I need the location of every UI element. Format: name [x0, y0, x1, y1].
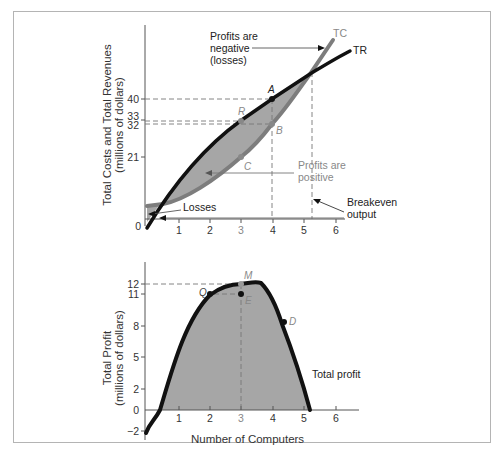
top-ytick-32: 32 — [127, 119, 139, 131]
bottom-ytick-0: 0 — [133, 404, 139, 416]
point-d-marker — [281, 319, 287, 325]
total-profit-label: Total profit — [312, 368, 361, 380]
point-b-label: B — [276, 125, 283, 136]
point-r-marker — [238, 118, 244, 124]
bottom-xtick-2: 2 — [207, 412, 213, 424]
top-xtick-4: 4 — [270, 224, 276, 236]
bottom-xtick-1: 1 — [176, 412, 182, 424]
top-ytick-40: 40 — [127, 93, 139, 105]
top-xtick-1: 1 — [176, 224, 182, 236]
pos-annotation-line1: Profits are — [298, 159, 346, 171]
bottom-ytick-11: 11 — [128, 288, 139, 300]
bottom-xtick-6: 6 — [333, 412, 339, 424]
bottom-xtick-5: 5 — [301, 412, 307, 424]
neg-annotation-line1: Profits are — [210, 30, 258, 42]
top-y-axis-title: Total Costs and Total Revenues (millions… — [101, 44, 125, 206]
bottom-ytick-5: 5 — [133, 351, 139, 363]
point-e-marker — [238, 291, 244, 297]
point-m-label: M — [244, 270, 253, 281]
top-ytick-21: 21 — [127, 151, 139, 163]
top-ytick-0: 0 — [135, 220, 141, 232]
point-q-marker — [207, 291, 213, 297]
bottom-x-axis-title: Number of Computers — [191, 433, 304, 445]
pos-annotation-line2: positive — [298, 171, 334, 183]
tr-label: TR — [353, 44, 367, 56]
tc-label: TC — [333, 27, 347, 39]
point-r-label: R — [238, 106, 245, 117]
bottom-xtick-4: 4 — [270, 412, 276, 424]
breakeven-label-line1: Breakeven — [347, 196, 397, 208]
point-c-marker — [238, 154, 244, 160]
top-chart: 1 2 3 4 5 6 40 33 32 21 0 Total Costs an… — [101, 25, 397, 236]
point-d-label: D — [289, 316, 296, 327]
bottom-ylabel-line1: Total Profit — [101, 330, 113, 385]
breakeven-label-line2: output — [347, 208, 376, 220]
top-ylabel-line2: (millions of dollars) — [113, 77, 125, 173]
point-m-marker — [238, 281, 244, 287]
neg-annotation-line2: negative — [210, 42, 250, 54]
top-xtick-5: 5 — [301, 224, 307, 236]
breakeven-leader — [318, 201, 344, 212]
top-y-ticks — [141, 99, 145, 157]
bottom-y-ticks — [141, 284, 145, 431]
point-b-marker — [269, 121, 275, 127]
bottom-y-axis-title: Total Profit (millions of dollars) — [101, 310, 125, 406]
bottom-ytick-8: 8 — [133, 320, 139, 332]
bottom-ytick-2: 2 — [133, 383, 139, 395]
point-c-label: C — [244, 161, 252, 172]
point-q-label: Q — [199, 287, 207, 298]
figure-svg: 1 2 3 4 5 6 40 33 32 21 0 Total Costs an… — [0, 0, 501, 473]
point-a-marker — [269, 96, 275, 102]
bottom-chart: 1 2 3 4 5 6 12 11 8 5 2 0 −2 Total Profi… — [101, 262, 361, 445]
top-x-ticks — [179, 219, 336, 223]
top-xtick-2: 2 — [207, 224, 213, 236]
breakeven-axis-arrowhead-icon — [159, 215, 166, 221]
losses-label: Losses — [183, 201, 216, 213]
bottom-ylabel-line2: (millions of dollars) — [113, 310, 125, 406]
bottom-xtick-3: 3 — [238, 412, 244, 424]
top-xtick-6: 6 — [333, 224, 339, 236]
neg-annotation-line3: (losses) — [210, 54, 247, 66]
top-ylabel-line1: Total Costs and Total Revenues — [101, 44, 113, 206]
bottom-ytick-neg2: −2 — [127, 425, 139, 437]
point-e-label: E — [245, 295, 252, 306]
point-a-label: A — [267, 84, 275, 95]
top-xtick-3: 3 — [238, 224, 244, 236]
